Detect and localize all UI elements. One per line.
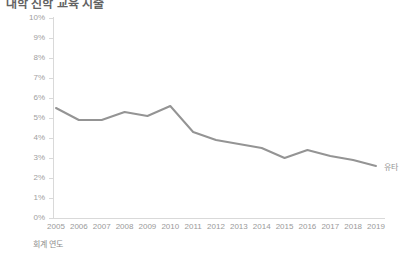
x-axis-title: 회계 연도	[33, 238, 63, 249]
y-tick-label: 10%	[17, 13, 45, 22]
series-label-유타: 유타	[384, 161, 398, 172]
y-tick-label: 8%	[17, 53, 45, 62]
line-chart: 대학 진학 교육 지출 진학률 10%9%8%7%6%5%4%3%2%1%0% …	[0, 0, 402, 260]
y-tick-label: 2%	[17, 173, 45, 182]
y-tick-label: 0%	[17, 213, 45, 222]
y-tick-label: 6%	[17, 93, 45, 102]
y-tick-mark	[49, 218, 53, 219]
y-tick-label: 1%	[17, 193, 45, 202]
y-tick-label: 3%	[17, 153, 45, 162]
x-tick-label: 2019	[356, 222, 396, 231]
y-tick-label: 4%	[17, 133, 45, 142]
x-axis-line	[53, 218, 385, 219]
y-tick-label: 7%	[17, 73, 45, 82]
plot-area: 10%9%8%7%6%5%4%3%2%1%0%	[53, 18, 385, 218]
y-tick-label: 5%	[17, 113, 45, 122]
chart-title-clipped: 대학 진학 교육 지출	[0, 0, 402, 9]
series-line	[56, 106, 376, 166]
series-lines	[53, 18, 385, 218]
chart-title: 대학 진학 교육 지출	[6, 0, 104, 9]
y-tick-label: 9%	[17, 33, 45, 42]
